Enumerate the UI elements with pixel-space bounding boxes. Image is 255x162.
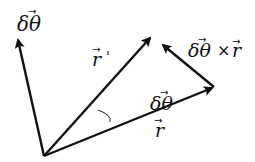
r-arrow <box>44 88 212 156</box>
vector-diagram: δθ → r → ' δθ → × r → δθ → r → <box>0 0 255 162</box>
cross-r-vec-marker: → <box>232 36 240 47</box>
r-prime-suffix: ' <box>106 49 110 65</box>
dtheta-arrow <box>18 40 44 156</box>
cross-dtheta-vec-marker: → <box>198 34 206 45</box>
angle-vec-marker: → <box>160 87 168 98</box>
dtheta-vec-marker: → <box>28 6 36 17</box>
angle-arc <box>98 110 110 122</box>
r-prime-vec-marker: → <box>92 44 100 55</box>
cross-times: × <box>217 41 230 60</box>
r-vec-marker: → <box>154 115 162 126</box>
